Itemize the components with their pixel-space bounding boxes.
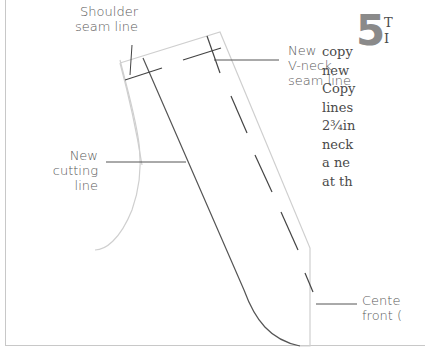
step-first-line: T I [384,15,393,47]
center-front-label: Cente front ( [362,293,402,323]
step-number: 5 [356,11,385,51]
armhole-curve [95,60,140,250]
pattern-outline [120,32,310,346]
step-instructions: copy new Copy lines 2¾in neck a ne at th [322,43,355,191]
new-vneck-seam-line [231,96,313,292]
new-cutting-label: New cutting line [20,148,98,193]
new-cutting-line [143,58,300,346]
shoulder-seam-label: Shoulder seam line [48,4,138,34]
